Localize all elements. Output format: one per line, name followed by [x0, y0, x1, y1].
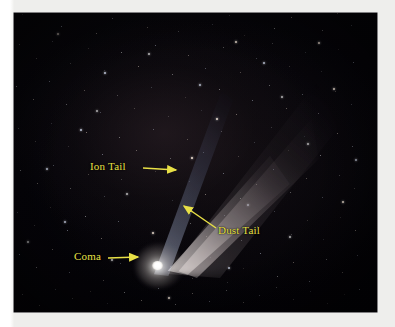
annotation-label-ion-tail: Ion Tail: [90, 160, 126, 172]
annotation-label-coma: Coma: [74, 250, 101, 262]
annotation-label-dust-tail: Dust Tail: [218, 224, 260, 236]
annotation-overlay: Ion Tail Dust Tail Coma: [0, 0, 395, 327]
arrow-right-icon-ion-tail: [143, 168, 176, 170]
annotation-arrows: [0, 0, 395, 327]
arrow-right-icon-coma: [108, 257, 138, 258]
comet-figure: Ion Tail Dust Tail Coma: [0, 0, 395, 327]
arrow-up-left-icon-dust-tail: [184, 206, 216, 228]
